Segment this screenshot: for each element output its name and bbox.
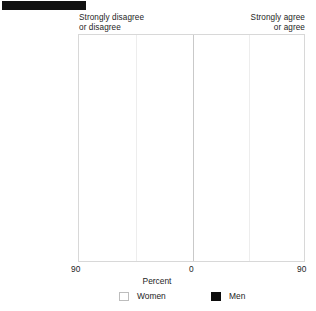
chart-legend: Women Men — [0, 291, 316, 305]
legend-swatch-men-icon — [211, 292, 221, 301]
legend-item-men: Men — [211, 291, 245, 301]
legend-label-men: Men — [229, 291, 245, 301]
legend-swatch-women-icon — [119, 292, 129, 301]
legend-item-women: Women — [119, 291, 166, 301]
axis-title-text: Percent — [143, 276, 172, 286]
axis-title-percent: Percent — [0, 276, 316, 286]
chart-canvas: Strongly disagree or disagree Strongly a… — [0, 0, 316, 311]
zero-axis-line — [193, 35, 194, 261]
axis-label-center: 0 — [189, 264, 194, 274]
gridline — [136, 35, 137, 261]
redacted-title-bar — [2, 1, 86, 10]
gridline — [249, 35, 250, 261]
legend-label-women: Women — [137, 291, 166, 301]
header-strongly-agree: Strongly agree or agree — [251, 13, 305, 32]
axis-label-left: 90 — [71, 264, 80, 274]
plot-area — [78, 34, 305, 262]
axis-label-right: 90 — [297, 264, 306, 274]
axis-tick-labels: 90 0 90 — [0, 264, 316, 276]
header-strongly-disagree: Strongly disagree or disagree — [79, 13, 144, 32]
